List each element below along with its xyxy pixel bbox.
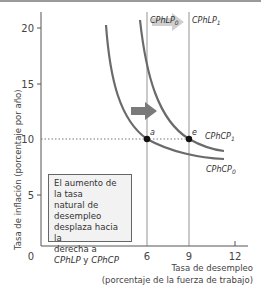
annotation-line: derecha a	[54, 244, 126, 255]
origin-tick-0: 0	[28, 251, 34, 262]
sr-shift-arrow-icon	[131, 102, 157, 120]
cphlp0-label: CPhLP0	[150, 16, 179, 26]
annotation-box: El aumento de la tasa natural de desempl…	[48, 174, 132, 242]
annotation-line: El aumento de la tasa	[54, 178, 126, 200]
y-tick-5: 5	[28, 190, 34, 201]
phillips-curve-chart: 20 15 10 5 0 6 9 12 Tasa de inflación (p…	[0, 0, 261, 294]
point-a-label: a	[150, 128, 155, 137]
annotation-line: natural de desempleo	[54, 200, 126, 222]
cphcp0-label: CPhCP0	[206, 165, 236, 175]
y-tick-10: 10	[21, 134, 34, 145]
y-tick-20: 20	[21, 23, 34, 34]
x-axis-label-units: (porcentaje de la fuerza de trabajo)	[102, 274, 253, 286]
x-axis-label: Tasa de desempleo	[172, 262, 253, 274]
x-tick-9: 9	[186, 251, 192, 262]
annotation-line: desplaza hacia la	[54, 222, 126, 244]
annotation-line: CPhLP y CPhCP	[54, 255, 126, 266]
x-tick-12: 12	[229, 251, 242, 262]
y-axis-label: Tasa de inflación (porcentaje por año)	[13, 89, 23, 251]
point-e-label: e	[192, 128, 197, 137]
cphlp1-label: CPhLP1	[192, 16, 221, 26]
cphcp1-label: CPhCP1	[205, 132, 235, 142]
y-tick-15: 15	[21, 79, 34, 90]
x-tick-6: 6	[144, 251, 150, 262]
